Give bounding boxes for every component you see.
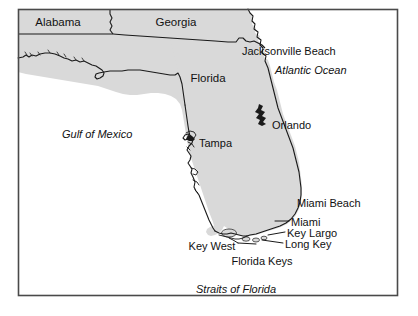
label-state-florida: Florida (190, 72, 226, 84)
label-city-long-key: Long Key (285, 238, 332, 250)
label-city-miami-beach: Miami Beach (297, 197, 361, 209)
label-city-orlando: Orlando (272, 119, 311, 131)
label-atlantic-ocean: Atlantic Ocean (274, 64, 347, 76)
label-region-florida-keys: Florida Keys (231, 255, 293, 267)
label-city-tampa: Tampa (199, 137, 233, 149)
label-straits-of-florida: Straits of Florida (196, 283, 276, 295)
florida-map-figure: Alabama Georgia Florida Gulf of Mexico A… (0, 0, 418, 316)
label-city-jacksonville-beach: Jacksonville Beach (242, 45, 336, 57)
label-state-georgia: Georgia (156, 16, 198, 28)
label-gulf-of-mexico: Gulf of Mexico (62, 128, 132, 140)
label-city-key-west: Key West (189, 240, 236, 252)
label-state-alabama: Alabama (35, 16, 81, 28)
map-canvas: Alabama Georgia Florida Gulf of Mexico A… (0, 0, 418, 316)
